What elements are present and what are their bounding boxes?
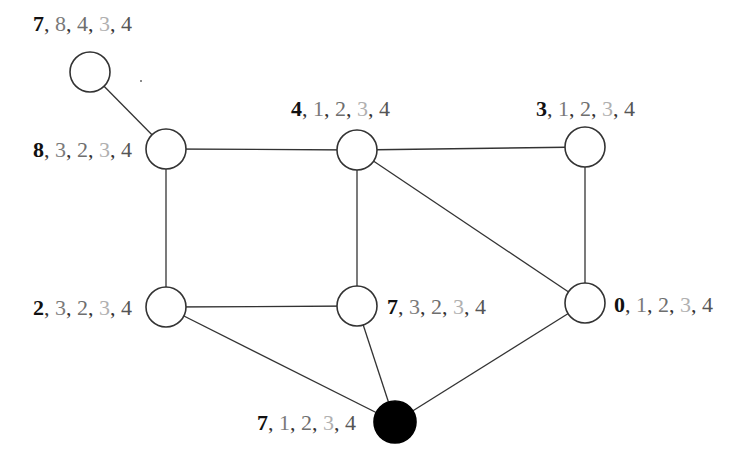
label-lower-right: 0, 1, 2, 3, 4 xyxy=(614,294,713,316)
label-lower-mid: 7, 3, 2, 3, 4 xyxy=(387,296,486,318)
node-upper-mid xyxy=(337,130,377,170)
edges xyxy=(90,72,585,422)
node-lower-right xyxy=(565,283,605,323)
edge-uppermid-lowerright xyxy=(357,150,585,303)
edge-upperleft-uppermid xyxy=(166,149,357,150)
edge-lowerright-bottom xyxy=(395,303,585,422)
label-value-0: 7 xyxy=(33,11,44,36)
edge-uppermid-upperright xyxy=(357,147,585,150)
label-upper-right: 3, 1, 2, 3, 4 xyxy=(536,98,635,120)
label-top-left: 7, 8, 4, 3, 4 xyxy=(33,13,132,35)
label-lower-left: 2, 3, 2, 3, 4 xyxy=(33,297,132,319)
node-lower-left xyxy=(146,287,186,327)
label-upper-mid: 4, 1, 2, 3, 4 xyxy=(291,98,390,120)
stray-dot xyxy=(140,80,142,82)
graph-diagram xyxy=(0,0,752,467)
node-upper-right xyxy=(565,127,605,167)
node-top-left xyxy=(70,52,110,92)
node-bottom-filled xyxy=(374,401,416,443)
label-upper-left: 8, 3, 2, 3, 4 xyxy=(33,139,132,161)
node-lower-mid xyxy=(337,286,377,326)
label-bottom: 7, 1, 2, 3, 4 xyxy=(257,412,356,434)
edge-lowerleft-lowermid xyxy=(166,306,357,307)
node-upper-left xyxy=(146,129,186,169)
